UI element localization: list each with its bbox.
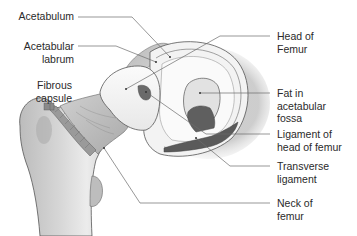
label-text: Acetabular [10,40,74,53]
label-text: head of femur [277,141,342,154]
label-text: capsule [10,92,72,105]
label-text: Fibrous [10,79,72,92]
label-text: Femur [277,43,314,56]
label-acetabulum: Acetabulum [10,10,74,23]
label-text: labrum [10,53,74,66]
label-transverse-ligament: Transverse ligament [277,160,329,185]
label-text: femur [277,210,313,223]
label-text: Head of [277,30,314,43]
label-text: Transverse [277,160,329,173]
label-text: acetabular [277,100,326,113]
label-text: fossa [277,112,326,125]
label-text: Fat in [277,87,326,100]
label-acetabular-labrum: Acetabular labrum [10,40,74,65]
label-neck-of-femur: Neck of femur [277,197,313,222]
label-fat-in-acetabular-fossa: Fat in acetabular fossa [277,87,326,125]
label-text: Acetabulum [10,10,74,23]
label-text: ligament [277,173,329,186]
label-text: Neck of [277,197,313,210]
label-ligament-of-head-of-femur: Ligament of head of femur [277,128,342,153]
label-head-of-femur: Head of Femur [277,30,314,55]
label-text: Ligament of [277,128,342,141]
label-fibrous-capsule: Fibrous capsule [10,79,72,104]
hip-joint-diagram: Acetabulum Acetabular labrum Fibrous cap… [0,0,357,236]
